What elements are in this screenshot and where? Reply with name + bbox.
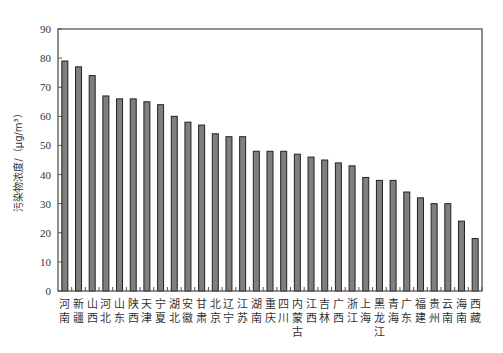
bar-6: [144, 102, 150, 291]
y-tick-label: 30: [40, 198, 52, 210]
bar-20: [335, 163, 341, 291]
bar-2: [89, 76, 95, 291]
x-category-label-char: 江: [374, 326, 385, 339]
x-category-label-char: 川: [278, 312, 289, 325]
x-category-label-char: 蒙: [292, 312, 303, 325]
x-category-label-char: 苏: [237, 312, 248, 325]
x-category-label-char: 南: [251, 312, 262, 325]
x-category-label-char: 福: [415, 297, 426, 311]
x-category-label-char: 安: [182, 297, 193, 311]
bars: [62, 61, 482, 291]
bar-15: [267, 151, 273, 291]
x-category-label-char: 东: [401, 312, 412, 325]
x-category-label-char: 山: [87, 298, 98, 311]
x-category-label-char: 西: [470, 298, 481, 311]
x-category-label-char: 夏: [155, 312, 166, 325]
x-category-label-char: 宁: [155, 297, 166, 311]
x-category-label-char: 津: [141, 312, 152, 325]
x-category-label-char: 西: [333, 312, 344, 325]
x-category-label-char: 浙: [347, 298, 358, 311]
x-category-label-char: 江: [306, 298, 317, 311]
x-category-label-char: 龙: [374, 312, 385, 325]
bar-7: [158, 105, 164, 291]
bar-4: [117, 99, 123, 291]
x-category-label-char: 江: [347, 312, 358, 325]
x-category-label-char: 北: [169, 312, 180, 325]
y-axis-title: 污染物浓度/（μg/m³）: [12, 108, 24, 211]
bar-8: [171, 116, 177, 291]
x-category-label-char: 庆: [265, 311, 276, 325]
x-category-label-char: 南: [59, 312, 70, 325]
x-category-label-char: 京: [210, 311, 221, 325]
bar-28: [445, 204, 451, 291]
x-category-label-char: 宁: [223, 311, 234, 325]
x-category-label-char: 北: [100, 312, 111, 325]
x-category-label-char: 天: [141, 298, 152, 311]
x-category-label-char: 海: [360, 311, 371, 325]
x-category-label-char: 西: [87, 312, 98, 325]
bar-3: [103, 96, 109, 291]
bar-18: [308, 157, 314, 291]
x-category-label-char: 青: [388, 298, 399, 311]
x-category-label-char: 西: [128, 312, 139, 325]
bar-11: [212, 134, 218, 291]
x-category-label-char: 广: [401, 298, 412, 311]
bar-0: [62, 61, 68, 291]
pollutant-concentration-bar-chart: 污染物浓度/（μg/m³） 0102030405060708090 河南新疆山西…: [0, 0, 503, 353]
x-category-label-char: 肃: [196, 312, 207, 325]
bar-17: [294, 154, 300, 291]
bar-9: [185, 122, 191, 291]
y-tick-label: 90: [40, 23, 52, 35]
x-axis-category-labels: 河南新疆山西河北山东陕西天津宁夏湖北安徽甘肃北京辽宁江苏湖南重庆四川内蒙古江西吉…: [59, 297, 480, 339]
y-tick-label: 80: [40, 52, 52, 64]
y-tick-label: 60: [40, 110, 52, 122]
x-category-label-char: 江: [237, 298, 248, 311]
x-category-label-char: 甘: [196, 298, 207, 311]
y-tick-label: 50: [40, 139, 52, 151]
x-category-label-char: 山: [114, 298, 125, 311]
bar-25: [404, 192, 410, 291]
x-category-label-char: 海: [456, 297, 467, 311]
x-category-label-char: 上: [360, 298, 371, 311]
x-category-label-char: 林: [319, 311, 330, 325]
x-category-label-char: 东: [114, 312, 125, 325]
x-category-label-char: 吉: [319, 298, 330, 311]
y-tick-label: 10: [40, 256, 52, 268]
bar-12: [226, 137, 232, 291]
y-tick-label: 20: [40, 227, 52, 239]
y-tick-label: 0: [46, 285, 52, 297]
x-category-label-char: 贵: [429, 298, 440, 311]
bar-19: [322, 160, 328, 291]
x-category-label-char: 广: [333, 298, 344, 311]
x-category-label-char: 河: [59, 298, 70, 311]
x-category-label-char: 陕: [128, 297, 139, 311]
x-category-label-char: 湖: [169, 298, 180, 311]
bar-30: [472, 239, 478, 291]
x-category-label-char: 辽: [223, 298, 234, 311]
x-category-label-char: 湖: [251, 298, 262, 311]
x-category-label-char: 河: [100, 298, 111, 311]
x-category-label-char: 重: [265, 297, 276, 311]
bar-21: [349, 166, 355, 291]
x-category-label-char: 西: [306, 312, 317, 325]
x-category-label-char: 云: [442, 298, 453, 311]
bar-14: [253, 151, 259, 291]
bar-24: [390, 180, 396, 291]
bar-1: [76, 67, 82, 291]
x-category-label-char: 内: [292, 297, 303, 311]
x-category-label-char: 古: [292, 326, 303, 339]
x-category-label-char: 藏: [470, 312, 481, 325]
x-category-label-char: 建: [415, 311, 426, 325]
y-tick-label: 70: [40, 81, 52, 93]
bar-23: [376, 180, 382, 291]
y-axis-label: 污染物浓度/（μg/m³）: [12, 108, 24, 211]
y-axis-ticks: 0102030405060708090: [40, 23, 62, 297]
bar-5: [130, 99, 136, 291]
x-category-label-char: 徽: [182, 311, 193, 325]
x-category-label-char: 南: [442, 312, 453, 325]
bar-29: [458, 221, 464, 291]
bar-10: [199, 125, 205, 291]
x-category-label-char: 黑: [374, 298, 385, 311]
x-category-label-char: 南: [456, 312, 467, 325]
x-category-label-char: 疆: [73, 312, 84, 325]
